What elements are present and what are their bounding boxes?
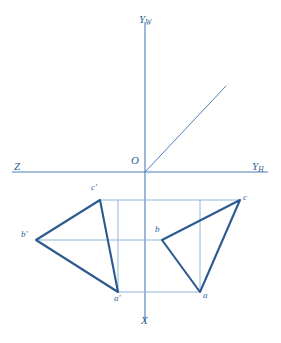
- projection-figure: [0, 0, 281, 343]
- 45-degree-bisector-line: [145, 86, 226, 172]
- vertex-label-a: a: [203, 291, 208, 300]
- vertex-label-b-prime: b': [21, 230, 27, 239]
- vertex-label-b: b: [155, 225, 160, 234]
- frontal-projection-triangle: [36, 200, 118, 292]
- vertex-label-c: c: [243, 193, 247, 202]
- projector-lines-group: [36, 200, 240, 292]
- axis-label-yh: YH: [252, 161, 264, 173]
- triangles-group: [36, 200, 240, 292]
- axis-label-z: Z: [14, 161, 20, 172]
- axis-label-x: X: [141, 315, 148, 326]
- horizontal-projection-triangle: [162, 200, 240, 292]
- bisector-group: [145, 86, 226, 172]
- axis-label-yw: YW: [139, 14, 152, 26]
- vertex-label-a-prime: a': [114, 294, 120, 303]
- axes-group: [12, 22, 268, 322]
- projection-drawing-canvas: YW Z YH X O c' b' a' c b a: [0, 0, 281, 343]
- origin-label-o: O: [131, 155, 139, 166]
- vertex-label-c-prime: c': [91, 183, 97, 192]
